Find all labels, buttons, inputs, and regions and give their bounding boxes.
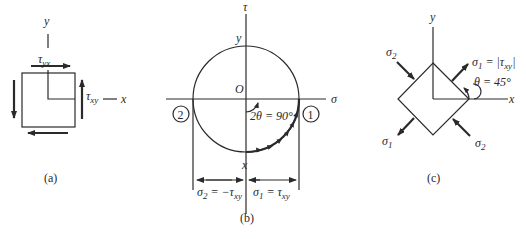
b-caption: (b) bbox=[240, 211, 254, 225]
panel-c: y x θ = 45° σ1 = |τxy| σ1 σ2 σ2 (c) bbox=[382, 10, 515, 185]
c-sigma2-top-arrow bbox=[397, 62, 414, 79]
a-right-shear-sub: xy bbox=[89, 95, 98, 105]
svg-text:σ1: σ1 bbox=[382, 134, 392, 150]
panel-b: τ σ O y x 2θ = 90° 2 1 bbox=[166, 0, 338, 225]
svg-text:τxy: τxy bbox=[86, 89, 98, 105]
stress-diagram: y τyx τxy x (a) τ σ O bbox=[0, 0, 526, 239]
b-angle-label: 2θ = 90° bbox=[250, 109, 293, 123]
a-x-axis-label: x bbox=[120, 92, 127, 106]
c-y-axis-label: y bbox=[429, 10, 436, 24]
svg-text:σ1 = |τxy|: σ1 = |τxy| bbox=[472, 55, 515, 71]
c-caption: (c) bbox=[427, 171, 440, 185]
b-sigma-axis-label: σ bbox=[331, 92, 338, 106]
svg-text:σ2: σ2 bbox=[386, 45, 397, 61]
a-caption: (a) bbox=[44, 171, 57, 185]
b-tau-axis-label: τ bbox=[243, 0, 248, 14]
b-point-1-label: 1 bbox=[308, 108, 314, 122]
svg-text:σ2: σ2 bbox=[475, 136, 486, 152]
a-inner-axes bbox=[48, 70, 75, 99]
c-angle-arc-arrow bbox=[464, 88, 469, 99]
b-point-2-label: 2 bbox=[178, 108, 184, 122]
c-x-axis-label: x bbox=[508, 92, 515, 106]
c-sigma1-bottom-arrow bbox=[398, 118, 414, 135]
c-angle-label: θ = 45° bbox=[474, 75, 511, 89]
panel-a: y τyx τxy x (a) bbox=[14, 14, 127, 185]
a-y-axis-label: y bbox=[43, 14, 50, 28]
b-origin-label: O bbox=[235, 82, 244, 96]
c-sigma1-top-arrow bbox=[452, 64, 468, 81]
b-point-y-label: y bbox=[235, 31, 242, 45]
b-point-x-label: x bbox=[241, 158, 248, 172]
svg-text:σ2 = −τxy: σ2 = −τxy bbox=[197, 185, 242, 201]
c-sigma2-bottom-arrow bbox=[453, 119, 470, 136]
svg-text:σ1 = τxy: σ1 = τxy bbox=[253, 185, 290, 201]
